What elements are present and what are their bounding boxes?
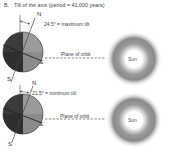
north-label-max: N <box>37 11 41 17</box>
south-label-max: S <box>7 76 11 82</box>
equator-label-max: E <box>40 59 43 65</box>
sun-label-max: Sun <box>128 56 137 62</box>
tilt-label-min: 21.5° = minimum tilt <box>32 90 76 96</box>
south-label-min: S <box>8 141 12 147</box>
earth-max <box>3 32 43 72</box>
earth-min <box>3 94 43 134</box>
orbit-label-max: Plane of orbit <box>61 51 90 57</box>
orbit-label-min: Plane of orbit <box>60 113 89 119</box>
equator-label-min: E <box>40 121 43 127</box>
sun-label-min: Sun <box>128 117 137 123</box>
tilt-label-max: 24.5° = maximum tilt <box>44 21 90 27</box>
north-label-min: N <box>32 80 36 86</box>
